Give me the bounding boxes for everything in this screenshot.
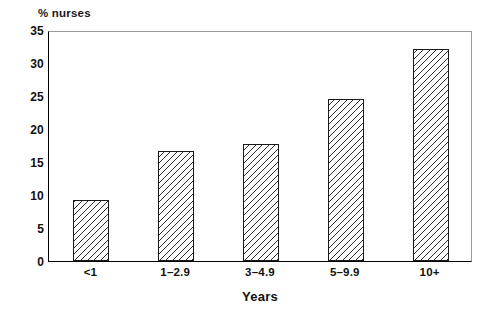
- y-axis-tick-labels: 05101520253035: [0, 31, 44, 262]
- x-axis-tick-label: <1: [84, 266, 98, 278]
- bar: [158, 151, 194, 261]
- y-axis-tick-label: 20: [0, 123, 44, 137]
- x-axis-title: Years: [48, 289, 472, 304]
- bar: [413, 49, 449, 261]
- y-axis-tick-label: 30: [0, 57, 44, 71]
- bar-chart: % nurses 05101520253035 <11–2.93–4.95–9.…: [0, 0, 494, 318]
- plot-frame: [48, 31, 472, 262]
- x-axis-tick-labels: <11–2.93–4.95–9.910+: [48, 266, 472, 286]
- y-axis-tick-label: 25: [0, 90, 44, 104]
- y-axis-tick-label: 35: [0, 24, 44, 38]
- y-axis-tick-label: 0: [0, 255, 44, 269]
- bar: [328, 99, 364, 261]
- y-axis-tick-label: 15: [0, 156, 44, 170]
- x-axis-tick-label: 1–2.9: [160, 266, 190, 278]
- y-axis-title: % nurses: [38, 7, 91, 19]
- bar: [73, 200, 109, 261]
- x-axis-tick-label: 5–9.9: [330, 266, 360, 278]
- x-axis-tick-label: 10+: [420, 266, 440, 278]
- y-axis-tick-label: 5: [0, 222, 44, 236]
- plot-area: [49, 32, 471, 261]
- y-axis-tick-label: 10: [0, 189, 44, 203]
- bar: [243, 144, 279, 261]
- x-axis-tick-label: 3–4.9: [245, 266, 275, 278]
